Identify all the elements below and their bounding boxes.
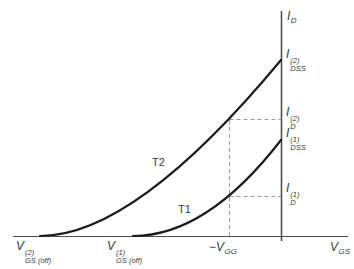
id2-base: I <box>286 105 289 119</box>
x-axis-label-sub: GS <box>339 247 351 256</box>
vgs-off-2-sub: GS (off) <box>25 257 51 265</box>
y-axis-label-sub: D <box>291 16 297 25</box>
neg-vgg-sub: GG <box>225 247 237 256</box>
id1-label: I(1)D <box>286 182 300 207</box>
idss2-sub: DSS <box>290 65 305 73</box>
vgs-off-1-label: V(1)GS (off) <box>107 240 142 265</box>
vgs-off-2-scripts: (2)GS (off) <box>25 249 51 265</box>
y-axis-label-base: I <box>287 9 290 23</box>
y-axis-label: ID <box>287 10 297 25</box>
t2-curve-label: T2 <box>152 157 165 168</box>
id1-sub: D <box>290 199 299 207</box>
vgs-off-2-label: V(2)GS (off) <box>16 240 51 265</box>
t2-curve <box>40 60 281 236</box>
x-axis-label-base: V <box>330 240 338 254</box>
idss1-sub: DSS <box>290 144 305 152</box>
neg-vgg-minus: − <box>209 240 216 254</box>
vgs-off-2-base: V <box>16 239 24 253</box>
jfet-transfer-characteristics-figure: ID I(2)DSS I(2)D I(1)DSS I(1)D T2 T1 V(2… <box>0 0 354 269</box>
idss1-base: I <box>286 126 289 140</box>
x-axis-label: VGS <box>330 241 350 256</box>
t1-curve <box>133 140 281 236</box>
idss1-scripts: (1)DSS <box>290 136 305 152</box>
vgs-off-1-base: V <box>107 239 115 253</box>
vgs-off-1-scripts: (1)GS (off) <box>116 249 142 265</box>
vgs-off-1-sub: GS (off) <box>116 257 142 265</box>
id1-base: I <box>286 181 289 195</box>
idss2-scripts: (2)DSS <box>290 57 305 73</box>
t1-curve-label: T1 <box>178 204 191 215</box>
id1-scripts: (1)D <box>290 191 299 207</box>
idss2-label: I(2)DSS <box>286 48 306 73</box>
idss1-label: I(1)DSS <box>286 127 306 152</box>
neg-vgg-label: −VGG <box>209 241 237 256</box>
neg-vgg-base: V <box>216 240 224 254</box>
idss2-base: I <box>286 47 289 61</box>
